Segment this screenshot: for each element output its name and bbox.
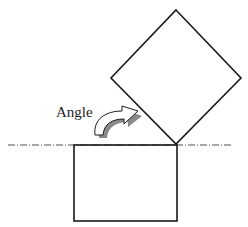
base-block (74, 145, 177, 221)
angle-label: Angle (56, 104, 93, 120)
curved-arrow-icon (95, 106, 142, 138)
diagram-canvas: Angle (0, 0, 248, 227)
